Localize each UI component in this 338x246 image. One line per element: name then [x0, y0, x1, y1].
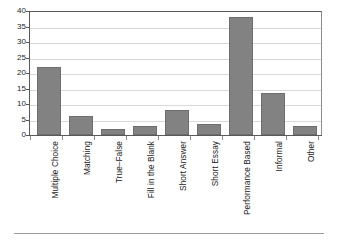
y-tick-label-35: 35 — [17, 23, 26, 31]
x-label-matching: Matching — [84, 141, 92, 175]
x-axis-line — [29, 135, 322, 136]
x-label-true-false: True–False — [116, 141, 124, 183]
y-tick-label-30: 30 — [17, 38, 26, 46]
x-label-short-essay: Short Essay — [212, 141, 220, 186]
x-tick-mark-1 — [62, 136, 63, 140]
x-tick-mark-6 — [222, 136, 223, 140]
x-label-fill-in-the-blank: Fill in the Blank — [148, 141, 156, 198]
y-tick-label-25: 25 — [17, 54, 26, 62]
bar-performance-based[interactable] — [229, 17, 253, 135]
x-label-short-answer: Short Answer — [180, 141, 188, 191]
x-tick-mark-0 — [30, 136, 31, 140]
x-tick-mark-5 — [190, 136, 191, 140]
y-tick-label-15: 15 — [17, 85, 26, 93]
x-label-informal: Informal — [276, 141, 284, 171]
bar-multiple-choice[interactable] — [37, 67, 61, 135]
plot-wrapper: 0 5 10 15 20 25 30 35 40 — [0, 0, 338, 150]
bar-informal[interactable] — [261, 93, 285, 135]
x-label-multiple-choice: Multiple Choice — [52, 141, 60, 198]
bar-fill-in-the-blank[interactable] — [133, 126, 157, 135]
bar-matching[interactable] — [69, 116, 93, 135]
x-label-other: Other — [308, 141, 316, 162]
bar-short-answer[interactable] — [165, 110, 189, 135]
x-tick-mark-7 — [254, 136, 255, 140]
y-tick-label-20: 20 — [17, 69, 26, 77]
bar-short-essay[interactable] — [197, 124, 221, 135]
x-tick-mark-2 — [94, 136, 95, 140]
x-tick-mark-8 — [286, 136, 287, 140]
x-axis-category-labels: Multiple Choice Matching True–False Fill… — [30, 141, 322, 221]
x-tick-mark-3 — [126, 136, 127, 140]
y-axis-tick-labels: 0 5 10 15 20 25 30 35 40 — [10, 11, 26, 135]
x-label-performance-based: Performance Based — [244, 141, 252, 215]
y-tick-label-10: 10 — [17, 100, 26, 108]
bar-true-false[interactable] — [101, 129, 125, 135]
chart-figure: 0 5 10 15 20 25 30 35 40 — [0, 0, 338, 246]
x-tick-mark-9 — [318, 136, 319, 140]
bars-layer — [30, 11, 322, 135]
footer-divider — [14, 233, 324, 234]
x-tick-mark-4 — [158, 136, 159, 140]
y-tick-label-40: 40 — [17, 7, 26, 15]
bar-other[interactable] — [293, 126, 317, 135]
